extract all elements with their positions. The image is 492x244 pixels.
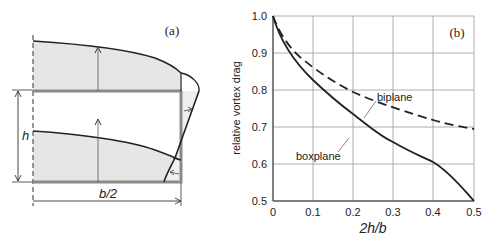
- svg-text:0.9: 0.9: [252, 47, 267, 59]
- panel-a-label: (a): [165, 23, 179, 38]
- panel-b-label: (b): [449, 25, 464, 40]
- figure-canvas: h b/2 (a) 1.0 0.9 0.8 0.7: [0, 0, 492, 244]
- svg-text:0.7: 0.7: [252, 121, 267, 133]
- upper-tip-bulge: [181, 73, 199, 91]
- svg-text:0.1: 0.1: [305, 206, 320, 218]
- svg-text:0.6: 0.6: [252, 158, 267, 170]
- svg-text:1.0: 1.0: [252, 10, 267, 22]
- svg-text:0.5: 0.5: [252, 195, 267, 207]
- boxplane-curve: [273, 16, 474, 201]
- svg-text:0.2: 0.2: [345, 206, 360, 218]
- panel-b-chart: 1.0 0.9 0.8 0.7 0.6 0.5 0 0.1 0.2 0.3 0.…: [230, 10, 482, 236]
- biplane-annotation: biplane: [377, 91, 412, 103]
- svg-text:0: 0: [270, 206, 276, 218]
- svg-text:0.4: 0.4: [425, 206, 440, 218]
- svg-text:0.5: 0.5: [466, 206, 481, 218]
- y-tick-labels: 1.0 0.9 0.8 0.7 0.6 0.5: [252, 10, 267, 207]
- panel-a-diagram: h b/2 (a): [12, 23, 199, 206]
- svg-text:0.3: 0.3: [385, 206, 400, 218]
- biplane-leader: [364, 101, 376, 118]
- h-label: h: [22, 128, 29, 143]
- boxplane-annotation: boxplane: [296, 150, 341, 162]
- x-axis-label: 2h/b: [358, 220, 386, 236]
- grid: [273, 16, 474, 201]
- x-tick-labels: 0 0.1 0.2 0.3 0.4 0.5: [270, 206, 482, 218]
- svg-text:0.8: 0.8: [252, 84, 267, 96]
- y-axis-label: relative vortex drag: [230, 61, 242, 155]
- half-span-label: b/2: [99, 186, 118, 201]
- biplane-curve: [273, 16, 474, 129]
